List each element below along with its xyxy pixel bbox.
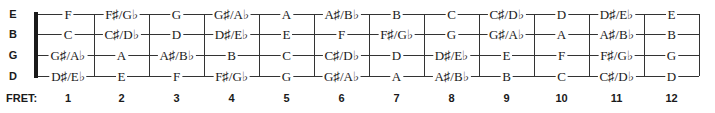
fret-line-9	[534, 14, 535, 76]
note-cell: E	[501, 49, 513, 63]
note-cell: E	[281, 28, 293, 42]
fret-line-4	[259, 14, 260, 76]
note-cell: G♯/A♭	[487, 28, 526, 42]
fret-number: 3	[173, 92, 179, 104]
note-cell: B	[390, 8, 403, 22]
note-cell: B	[225, 49, 238, 63]
note-cell: C♯/D♭	[322, 49, 360, 63]
note-cell: F♯/G♭	[378, 28, 415, 42]
note-cell: E	[666, 8, 678, 22]
note-cell: G	[665, 49, 678, 63]
note-cell: F♯/G♭	[213, 70, 250, 84]
note-cell: D♯/E♭	[213, 28, 250, 42]
note-cell: A♯/B♭	[432, 70, 470, 84]
note-cell: B	[500, 70, 513, 84]
note-cell: G	[170, 8, 183, 22]
fret-number: 2	[118, 92, 124, 104]
note-cell: A♯/B♭	[597, 28, 635, 42]
fret-number: 6	[338, 92, 344, 104]
note-cell: A	[115, 49, 128, 63]
note-cell: C	[555, 70, 568, 84]
string-label-b: B	[6, 28, 20, 40]
fret-number: 1	[65, 92, 71, 104]
fret-line-6	[369, 14, 370, 76]
fret-line-2	[149, 14, 150, 76]
note-cell: G	[280, 70, 293, 84]
note-cell: D♯/E♭	[598, 8, 635, 22]
fret-number: 12	[665, 92, 677, 104]
fret-number: 8	[448, 92, 454, 104]
note-cell: C♯/D♭	[102, 28, 140, 42]
note-cell: F	[336, 28, 347, 42]
note-cell: A♯/B♭	[322, 8, 360, 22]
note-cell: A	[555, 28, 568, 42]
note-cell: E	[116, 70, 128, 84]
note-cell: C	[280, 49, 293, 63]
fretboard-diagram: EBGDFF♯/G♭GG♯/A♭AA♯/B♭BCC♯/D♭DD♯/E♭ECC♯/…	[0, 0, 715, 113]
fret-number: 4	[228, 92, 234, 104]
fret-number: 11	[611, 92, 623, 104]
string-label-e: E	[6, 8, 20, 20]
note-cell: G♯/A♭	[322, 70, 361, 84]
note-cell: F♯/G♭	[103, 8, 140, 22]
fret-line-10	[589, 14, 590, 76]
note-cell: F	[62, 8, 73, 22]
note-cell: C	[445, 8, 458, 22]
note-cell: D♯/E♭	[49, 70, 86, 84]
note-cell: A	[390, 70, 403, 84]
note-cell: D	[170, 28, 183, 42]
note-cell: C♯/D♭	[487, 8, 525, 22]
fret-number: 5	[283, 92, 289, 104]
string-label-g: G	[6, 49, 20, 61]
note-cell: F	[171, 70, 182, 84]
fret-line-1	[94, 14, 95, 76]
fret-line-11	[644, 14, 645, 76]
note-cell: A♯/B♭	[157, 49, 195, 63]
note-cell: C	[62, 28, 75, 42]
note-cell: D♯/E♭	[433, 49, 470, 63]
note-cell: D	[390, 49, 403, 63]
note-cell: B	[665, 28, 678, 42]
note-cell: D	[665, 70, 678, 84]
note-cell: G	[445, 28, 458, 42]
nut	[34, 12, 38, 78]
string-label-d: D	[6, 70, 20, 82]
fret-line-3	[204, 14, 205, 76]
fret-line-8	[479, 14, 480, 76]
note-cell: D	[555, 8, 568, 22]
fret-number: 7	[393, 92, 399, 104]
note-cell: F♯/G♭	[598, 49, 635, 63]
note-cell: G♯/A♭	[212, 8, 251, 22]
note-cell: F	[556, 49, 567, 63]
fret-row-label: FRET:	[6, 92, 37, 104]
fret-number: 10	[555, 92, 567, 104]
note-cell: A	[280, 8, 293, 22]
note-cell: G♯/A♭	[49, 49, 88, 63]
fret-number: 9	[503, 92, 509, 104]
fret-line-7	[424, 14, 425, 76]
note-cell: C♯/D♭	[597, 70, 635, 84]
fret-line-5	[314, 14, 315, 76]
fret-line-12	[699, 14, 700, 76]
